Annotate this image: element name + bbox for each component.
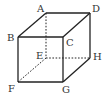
- edge-gh: [63, 58, 90, 82]
- hidden-edge-ef: [18, 58, 46, 82]
- vertex-label-e: E: [36, 50, 43, 61]
- cube-diagram: A B C D E F G H: [0, 0, 105, 101]
- edge-ab: [18, 13, 46, 37]
- vertex-label-g: G: [62, 84, 70, 95]
- vertex-label-a: A: [36, 3, 45, 14]
- vertex-labels: A B C D E F G H: [7, 3, 102, 95]
- cube-edges: [18, 13, 90, 82]
- vertex-label-d: D: [92, 3, 100, 14]
- vertex-label-h: H: [93, 51, 102, 62]
- vertex-label-b: B: [7, 32, 14, 43]
- edge-dc: [63, 13, 90, 37]
- vertex-label-f: F: [8, 83, 15, 94]
- vertex-label-c: C: [66, 37, 74, 48]
